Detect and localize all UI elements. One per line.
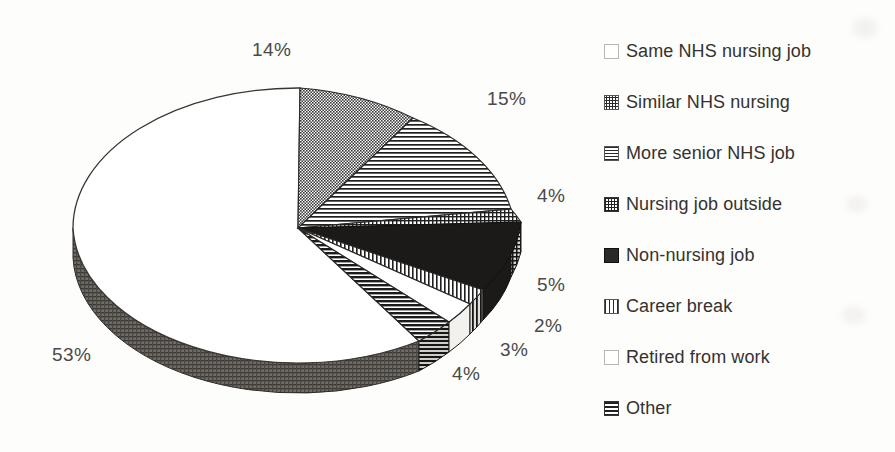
pie-label-non-nursing-job: 5% bbox=[537, 274, 565, 296]
pie-label-similar-nhs-nursing: 14% bbox=[252, 39, 291, 61]
legend-label: Other bbox=[626, 398, 672, 419]
chart-legend: Same NHS nursing job Similar NHS nursing… bbox=[604, 26, 894, 434]
legend-swatch-thick-horizontal-lines-icon bbox=[604, 401, 619, 416]
legend-swatch-grid-icon bbox=[604, 197, 619, 212]
legend-swatch-dots-icon bbox=[604, 95, 619, 110]
pie-chart-graphic bbox=[0, 0, 600, 452]
legend-item-more-senior-nhs-job: More senior NHS job bbox=[604, 128, 894, 179]
legend-label: More senior NHS job bbox=[626, 143, 795, 164]
legend-item-similar-nhs-nursing: Similar NHS nursing bbox=[604, 77, 894, 128]
legend-label: Career break bbox=[626, 296, 732, 317]
pie-label-same-nhs-nursing-job: 53% bbox=[52, 344, 91, 366]
legend-label: Retired from work bbox=[626, 347, 770, 368]
pie-label-retired-from-work: 3% bbox=[500, 339, 528, 361]
legend-item-retired-from-work: Retired from work bbox=[604, 332, 894, 383]
legend-label: Non-nursing job bbox=[626, 245, 755, 266]
legend-label: Nursing job outside bbox=[626, 194, 782, 215]
legend-item-other: Other bbox=[604, 383, 894, 434]
legend-swatch-horizontal-lines-icon bbox=[604, 146, 619, 161]
pie-label-nursing-job-outside: 4% bbox=[537, 185, 565, 207]
legend-swatch-blank-icon bbox=[604, 44, 619, 59]
legend-swatch-blank-icon bbox=[604, 350, 619, 365]
legend-item-nursing-job-outside: Nursing job outside bbox=[604, 179, 894, 230]
pie-label-more-senior-nhs-job: 15% bbox=[487, 88, 526, 110]
pie-label-other: 4% bbox=[452, 363, 480, 385]
legend-label: Same NHS nursing job bbox=[626, 41, 811, 62]
pie-chart: 14% 15% 4% 5% 2% 3% 4% 53% bbox=[0, 0, 600, 452]
legend-label: Similar NHS nursing bbox=[626, 92, 790, 113]
legend-swatch-vertical-lines-icon bbox=[604, 299, 619, 314]
legend-item-non-nursing-job: Non-nursing job bbox=[604, 230, 894, 281]
legend-item-same-nhs-nursing-job: Same NHS nursing job bbox=[604, 26, 894, 77]
pie-label-career-break: 2% bbox=[534, 315, 562, 337]
legend-swatch-solid-black-icon bbox=[604, 248, 619, 263]
legend-item-career-break: Career break bbox=[604, 281, 894, 332]
